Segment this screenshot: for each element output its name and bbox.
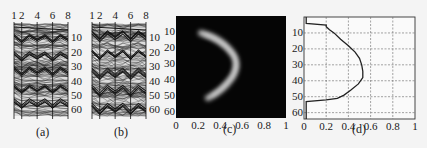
panel-d-y-tick: 20 [273,43,303,54]
caption-d: (d) [352,123,366,135]
panel-d-y-tick: 60 [273,107,303,118]
caption-b: (b) [114,126,128,138]
panel-c-y-tick: 10 [145,26,175,37]
panel-d-x-tick: 1 [395,121,427,132]
caption-c: (c) [223,123,236,135]
caption-a: (a) [36,126,49,138]
panel-c-y-tick: 20 [145,42,175,53]
panel-d: 00.20.40.60.81 102030405060 (d) [290,0,427,148]
panel-d-y-tick: 10 [273,27,303,38]
panel-d-y-tick: 40 [273,75,303,86]
panel-d-y-tick: 50 [273,91,303,102]
panel-d-y-tick: 30 [273,59,303,70]
panel-c-y-tick: 50 [145,90,175,101]
panel-a: 12468 102030405060 (a) [0,0,90,148]
panel-c-y-tick: 30 [145,58,175,69]
panel-c-y-tick: 60 [145,106,175,117]
panel-c-y-tick: 40 [145,74,175,85]
